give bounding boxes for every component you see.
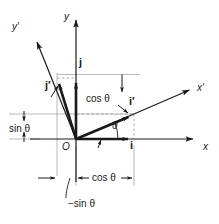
unit-vectors [59, 83, 129, 139]
diagram-canvas [0, 0, 219, 224]
vector-label-j-prime: j′ [45, 80, 51, 91]
vector-label-j: j [79, 57, 82, 68]
vector-i-prime [76, 117, 129, 139]
annotation-cos-theta-upper: cos θ [86, 94, 110, 104]
annotation-sin-theta-left: sin θ [9, 124, 30, 134]
annotation-cos-theta-lower: cos θ [92, 173, 116, 183]
annotation-origin: O [62, 142, 70, 152]
leader-neg-sin-theta [66, 178, 70, 198]
main-axes [30, 20, 193, 182]
vector-label-i: i [130, 140, 133, 151]
leader-theta-vertex [98, 140, 101, 148]
axis-label-x-prime: x′ [197, 83, 204, 93]
leader-iprime [118, 105, 128, 113]
axis-label-y: y [64, 12, 69, 22]
vector-label-i-prime: i′ [129, 96, 135, 107]
annotation-neg-sin-theta: −sin θ [68, 199, 95, 209]
vector-j-prime [59, 84, 76, 139]
axis-label-y-prime: y′ [12, 22, 19, 32]
vector-diagram-figure: x y x′ y′ i j i′ j′ θ cos θ sin θ cos θ … [0, 0, 219, 224]
annotation-angle-theta: θ [112, 121, 117, 131]
axis-label-x: x [203, 142, 208, 152]
